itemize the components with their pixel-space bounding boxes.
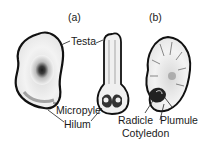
bean-seed-side-view bbox=[16, 33, 64, 109]
label-cotyledon: Cotyledon bbox=[122, 128, 169, 139]
seed-structure-diagram: (a) (b) Testa Micropyle Hilum Radicle Pl… bbox=[0, 0, 210, 147]
label-testa: Testa bbox=[71, 36, 96, 47]
panel-label-a: (a) bbox=[68, 12, 81, 23]
testa-leader bbox=[61, 41, 70, 45]
label-micropyle: Micropyle bbox=[56, 105, 101, 116]
label-plumule: Plumule bbox=[160, 115, 198, 126]
testa-leader-right bbox=[96, 40, 103, 43]
label-radicle: Radicle bbox=[118, 115, 153, 126]
panel-label-b: (b) bbox=[149, 12, 162, 23]
bean-seed-edge-view bbox=[97, 33, 128, 114]
label-hilum: Hilum bbox=[64, 119, 91, 130]
